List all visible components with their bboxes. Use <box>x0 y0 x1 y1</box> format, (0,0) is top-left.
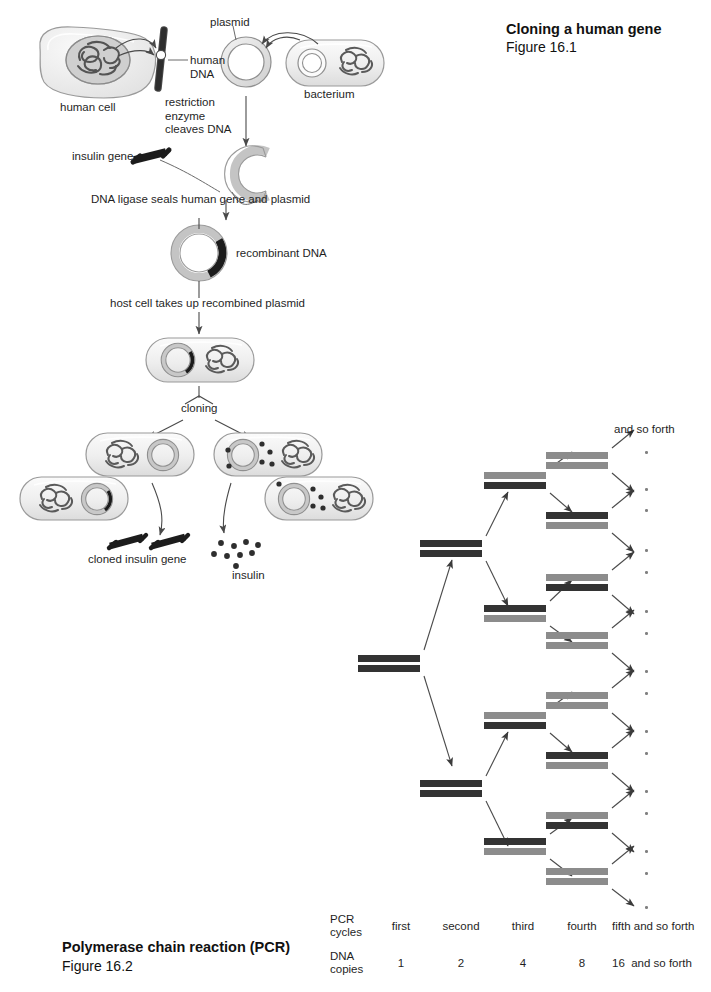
pcr-arrow-g4-0b <box>612 473 634 492</box>
pcr-arrow-g4-4a <box>612 670 634 688</box>
cell-copies-4: 4 <box>494 944 552 982</box>
pcr-arrow-g4-5b <box>612 773 634 792</box>
figure2-pcr-tree <box>0 0 711 992</box>
figure2-number: Figure 16.2 <box>62 957 133 975</box>
cell-cycle-third: third <box>494 908 552 944</box>
pcr-dna-gen4-3 <box>546 632 608 649</box>
figure2-title: Polymerase chain reaction (PCR) <box>62 938 290 956</box>
cell-cycle-fourth: fourth <box>552 908 612 944</box>
pcr-dna-gen4-1 <box>546 512 608 529</box>
pcr-arrow-g1-down <box>424 676 452 766</box>
pcr-gen5-dot <box>645 790 648 793</box>
cell-cycle-first: first <box>374 908 428 944</box>
pcr-dna-gen4-4 <box>546 692 608 709</box>
pcr-arrow-g3c-down <box>550 733 572 752</box>
table-row-pcr-cycles: PCR cycles first second third fourth fif… <box>330 908 708 944</box>
pcr-dna-gen4-0 <box>546 452 608 469</box>
pcr-dna-gen3-1 <box>484 605 546 622</box>
pcr-gen5-dot <box>645 571 648 574</box>
pcr-arrow-g4-1a <box>612 490 634 508</box>
cell-copies-8: 8 <box>552 944 612 982</box>
pcr-gen5-dot <box>645 752 648 755</box>
pcr-gen5-dot <box>645 610 648 613</box>
pcr-arrow-g1-up <box>424 560 452 650</box>
pcr-arrow-g4-3a <box>612 610 634 628</box>
pcr-arrow-g2b-up <box>486 732 508 776</box>
pcr-gen5-dot <box>645 451 648 454</box>
pcr-dna-gen4-6 <box>546 812 608 829</box>
pcr-arrow-g4-1b <box>612 533 634 552</box>
pcr-arrow-g4-7b <box>612 889 634 906</box>
cell-copies-16: 16 and so forth <box>612 944 708 982</box>
pcr-gen5-dot <box>645 730 648 733</box>
pcr-arrow-g4-3b <box>612 653 634 672</box>
cell-cycle-fifth: fifth and so forth <box>612 908 708 944</box>
pcr-arrow-g4-6a <box>612 790 634 808</box>
cell-copies-1: 1 <box>374 944 428 982</box>
pcr-gen5-dot <box>645 812 648 815</box>
pcr-dna-gen4-7 <box>546 868 608 885</box>
pcr-gen5-dot <box>645 850 648 853</box>
pcr-dna-gen2-1 <box>420 780 482 797</box>
pcr-gen5-dot <box>645 549 648 552</box>
pcr-arrow-g4-2b <box>612 595 634 614</box>
label-and-so-forth: and so forth <box>614 423 675 437</box>
pcr-arrow-g4-5a <box>612 730 634 748</box>
pcr-table: PCR cycles first second third fourth fif… <box>330 908 708 982</box>
pcr-gen5-dot <box>645 670 648 673</box>
pcr-dna-gen1-0 <box>358 655 420 672</box>
cell-copies-2: 2 <box>428 944 494 982</box>
pcr-gen5-dot <box>645 872 648 875</box>
cell-cycle-second: second <box>428 908 494 944</box>
pcr-gen5-dot <box>645 488 648 491</box>
pcr-dna-gen3-0 <box>484 472 546 489</box>
row-header-dna-copies: DNA copies <box>330 944 374 982</box>
pcr-arrow-g3a-down <box>550 493 572 512</box>
pcr-arrow-g4-4b <box>612 713 634 732</box>
pcr-dna-gen3-3 <box>484 838 546 855</box>
pcr-dna-gen4-5 <box>546 752 608 769</box>
table-row-dna-copies: DNA copies 1 2 4 8 16 and so forth <box>330 944 708 982</box>
pcr-gen5-dot <box>645 632 648 635</box>
pcr-gen5-dot <box>645 509 648 512</box>
pcr-dna-gen4-2 <box>546 574 608 591</box>
pcr-dna-gen3-2 <box>484 712 546 729</box>
row-header-pcr-cycles: PCR cycles <box>330 908 374 944</box>
pcr-dna-gen2-0 <box>420 540 482 557</box>
pcr-arrow-g2a-up <box>486 492 508 536</box>
pcr-gen5-dot <box>645 692 648 695</box>
pcr-arrow-g4-7a <box>612 846 634 864</box>
pcr-arrow-g2a-down <box>486 561 508 606</box>
pcr-arrow-g4-2a <box>612 552 634 570</box>
